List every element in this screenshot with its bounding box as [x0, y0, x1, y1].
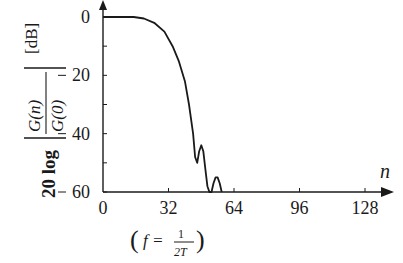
y-label-numerator: G(n)	[25, 100, 44, 132]
x-tick-label: 0	[99, 198, 108, 218]
nyquist-annotation: ( f = 1 2T )	[130, 225, 205, 259]
x-tick-label: 32	[160, 198, 178, 218]
y-label-denominator: G(0)	[48, 100, 67, 132]
x-tick-label: 64	[225, 198, 243, 218]
y-tick-label: 0	[81, 7, 90, 27]
y-tick-label: 20	[72, 65, 90, 85]
gain-curve-line	[103, 17, 222, 192]
axes	[99, 0, 394, 197]
x-tick-label: 128	[352, 198, 379, 218]
paren-left: (	[130, 225, 139, 254]
annot-denominator: 2T	[174, 245, 188, 259]
x-tick-label: 96	[291, 198, 309, 218]
annot-numerator: 1	[178, 227, 184, 241]
chart-canvas: 03264961280204060 20 log G(n) G(0) [dB] …	[0, 0, 403, 263]
x-axis-arrow-icon	[381, 187, 394, 197]
gain-response-chart: 03264961280204060 20 log G(n) G(0) [dB] …	[0, 0, 403, 263]
gain-curve	[103, 17, 222, 192]
annot-f-label: f =	[143, 231, 163, 250]
y-tick-label: 40	[72, 124, 90, 144]
ticks: 03264961280204060	[58, 7, 379, 218]
y-label-prefix: 20 log	[38, 149, 59, 198]
y-unit-label: [dB]	[22, 23, 41, 54]
y-tick-label: 60	[72, 182, 90, 202]
y-axis-arrow-icon	[99, 0, 107, 10]
paren-right: )	[196, 225, 205, 254]
y-axis-label: 20 log G(n) G(0) [dB]	[22, 23, 67, 198]
x-axis-label: n	[380, 160, 390, 182]
